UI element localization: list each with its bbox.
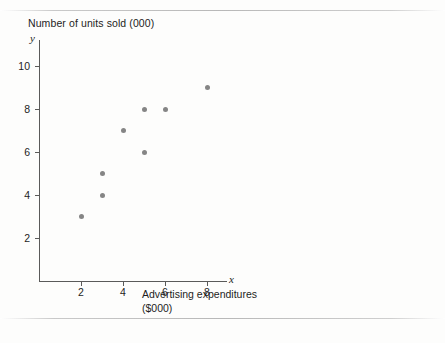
data-point xyxy=(100,171,105,176)
x-axis-label-line1: Advertising expenditures xyxy=(142,288,342,302)
data-point xyxy=(100,193,105,198)
chart-title: Number of units sold (000) xyxy=(28,17,154,29)
x-axis-symbol: x xyxy=(229,273,234,285)
data-point xyxy=(142,107,147,112)
y-tick-2 xyxy=(35,238,40,239)
y-tick-label-4: 4 xyxy=(8,189,30,201)
y-tick-label-2: 2 xyxy=(8,232,30,244)
y-tick-8 xyxy=(35,109,40,110)
y-tick-4 xyxy=(35,195,40,196)
data-point xyxy=(142,150,147,155)
x-tick-label-4: 4 xyxy=(112,286,134,298)
data-point xyxy=(163,107,168,112)
y-axis-symbol: y xyxy=(30,32,35,44)
y-tick-6 xyxy=(35,152,40,153)
y-axis-line xyxy=(39,40,40,282)
y-tick-label-10: 10 xyxy=(8,60,30,72)
x-tick-label-2: 2 xyxy=(70,286,92,298)
x-axis-label-line2: ($000) xyxy=(142,302,342,316)
y-tick-label-6: 6 xyxy=(8,146,30,158)
data-point xyxy=(79,214,84,219)
scatter-plot: Number of units sold (000) y x 246810 24… xyxy=(0,0,445,343)
y-tick-10 xyxy=(35,66,40,67)
x-axis-label: Advertising expenditures ($000) xyxy=(142,288,342,315)
y-tick-label-8: 8 xyxy=(8,103,30,115)
page-canvas: Number of units sold (000) y x 246810 24… xyxy=(0,0,445,343)
x-axis-line xyxy=(39,281,227,282)
data-point xyxy=(205,85,210,90)
data-point xyxy=(121,128,126,133)
